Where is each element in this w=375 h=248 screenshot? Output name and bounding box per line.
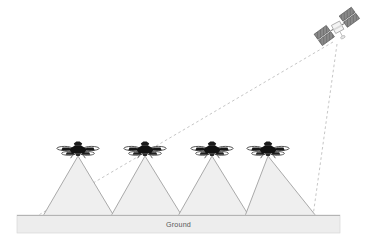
drone-1 [57,141,99,158]
coverage-cone-1 [43,156,114,216]
diagram-canvas: Ground [0,0,375,248]
ground-strip: Ground [17,215,340,233]
coverage-cone-4 [245,156,316,216]
coverage-cone-3 [178,156,249,216]
drone-2 [124,141,166,158]
satellite-antenna-dish [340,35,345,40]
drone-4 [247,141,289,158]
coverage-cone-2 [111,156,182,216]
drones-group [57,141,289,158]
satellite-panel-left [313,25,335,47]
ground-label: Ground [166,220,191,229]
drone-3 [191,141,233,158]
satellite-swath-right-link [313,44,337,216]
satellite-antenna [340,31,343,36]
satellite [311,6,364,49]
coverage-cones-group [43,156,316,216]
scene-illustration: Ground [0,0,375,248]
